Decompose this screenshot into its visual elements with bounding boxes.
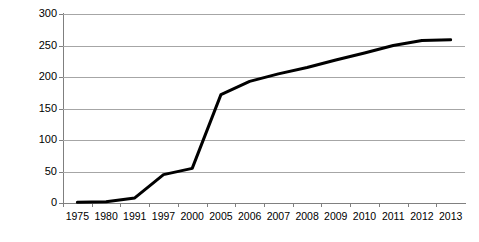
chart-container: Number of FTAs 050100150200250300 197519…: [0, 0, 479, 242]
data-line-svg: [0, 0, 479, 242]
data-series-line: [77, 40, 450, 203]
